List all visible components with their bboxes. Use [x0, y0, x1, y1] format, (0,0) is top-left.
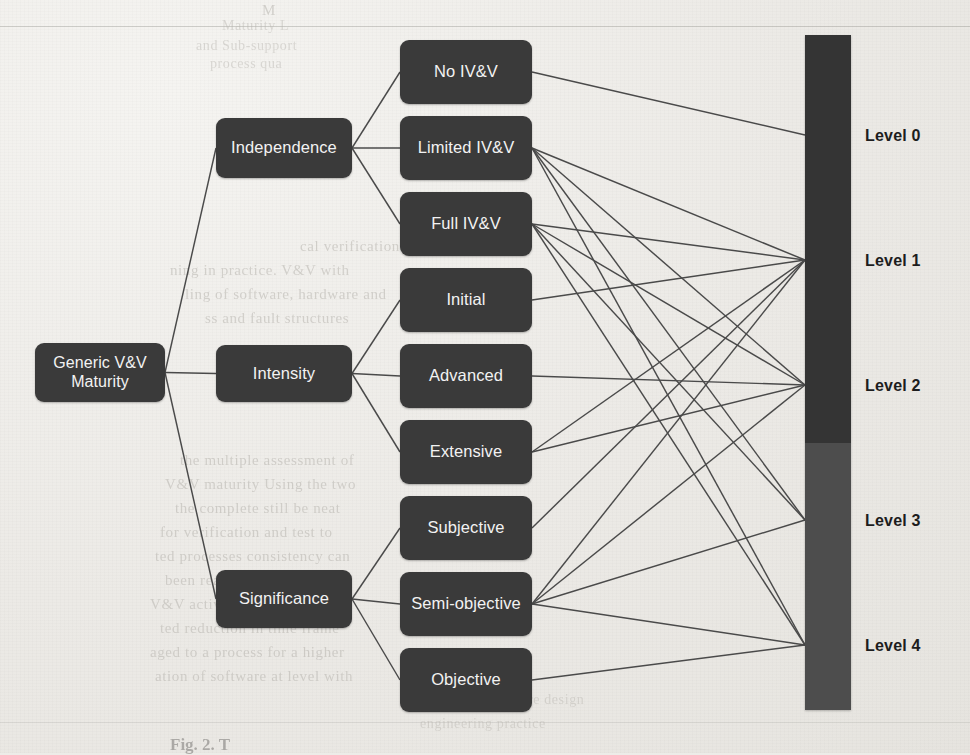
- node-root-generic-vv-maturity[interactable]: Generic V&V Maturity: [35, 343, 165, 402]
- node-label: Full IV&V: [431, 214, 501, 233]
- link-extensive-to-level-1: [532, 260, 805, 452]
- node-option-initial[interactable]: Initial: [400, 268, 532, 332]
- link-full-ivv-to-level-4: [532, 224, 805, 645]
- link-root-to-significance: [165, 373, 216, 600]
- node-label: Independence: [231, 138, 337, 157]
- link-subjective-to-level-1: [532, 260, 805, 528]
- node-label: Semi-objective: [411, 594, 521, 613]
- node-option-limited-ivv[interactable]: Limited IV&V: [400, 116, 532, 180]
- node-option-semi-objective[interactable]: Semi-objective: [400, 572, 532, 636]
- node-label: Subjective: [427, 518, 504, 537]
- link-significance-to-subjective: [352, 528, 400, 599]
- link-intensity-to-initial: [352, 300, 400, 374]
- level-label-level-1: Level 1: [865, 252, 921, 270]
- node-label: Objective: [431, 670, 501, 689]
- link-root-to-intensity: [165, 373, 216, 374]
- node-label: Limited IV&V: [418, 138, 515, 157]
- link-root-to-independence: [165, 148, 216, 373]
- link-semi-objective-to-level-4: [532, 604, 805, 645]
- node-label: Extensive: [430, 442, 502, 461]
- node-option-subjective[interactable]: Subjective: [400, 496, 532, 560]
- level-label-level-4: Level 4: [865, 637, 921, 655]
- node-label: No IV&V: [434, 62, 498, 81]
- link-full-ivv-to-level-3: [532, 224, 805, 520]
- node-option-full-ivv[interactable]: Full IV&V: [400, 192, 532, 256]
- link-intensity-to-extensive: [352, 374, 400, 453]
- link-semi-objective-to-level-1: [532, 260, 805, 604]
- level-bar-lower-segment: [805, 443, 851, 710]
- level-label-level-0: Level 0: [865, 127, 921, 145]
- link-semi-objective-to-level-3: [532, 520, 805, 604]
- link-significance-to-semi-objective: [352, 599, 400, 604]
- node-dimension-significance[interactable]: Significance: [216, 570, 352, 628]
- link-no-ivv-to-level-0: [532, 72, 805, 135]
- figure-caption: Fig. 2. T: [170, 735, 230, 755]
- node-dimension-independence[interactable]: Independence: [216, 118, 352, 178]
- link-full-ivv-to-level-2: [532, 224, 805, 385]
- node-option-advanced[interactable]: Advanced: [400, 344, 532, 408]
- link-advanced-to-level-2: [532, 376, 805, 385]
- node-label: Intensity: [253, 364, 315, 383]
- node-option-no-ivv[interactable]: No IV&V: [400, 40, 532, 104]
- link-objective-to-level-4: [532, 645, 805, 680]
- node-label: Initial: [446, 290, 485, 309]
- link-significance-to-objective: [352, 599, 400, 680]
- node-label: Advanced: [429, 366, 503, 385]
- level-connector-group: [532, 72, 805, 680]
- node-option-extensive[interactable]: Extensive: [400, 420, 532, 484]
- link-full-ivv-to-level-1: [532, 224, 805, 260]
- level-label-level-3: Level 3: [865, 512, 921, 530]
- node-dimension-intensity[interactable]: Intensity: [216, 345, 352, 402]
- maturity-level-bar[interactable]: [805, 35, 851, 710]
- link-independence-to-no-ivv: [352, 72, 400, 148]
- node-option-objective[interactable]: Objective: [400, 648, 532, 712]
- link-independence-to-full-ivv: [352, 148, 400, 224]
- level-label-level-2: Level 2: [865, 377, 921, 395]
- node-label: Significance: [239, 589, 329, 608]
- link-intensity-to-advanced: [352, 374, 400, 377]
